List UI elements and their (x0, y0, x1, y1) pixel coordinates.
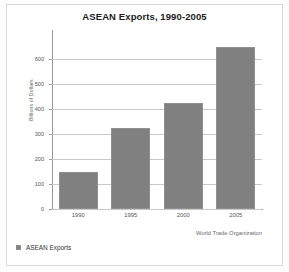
x-tick-label: 1990 (72, 212, 85, 218)
plot-area (52, 34, 262, 209)
bar (216, 47, 255, 210)
y-tick-label: 500 (35, 81, 44, 87)
bar (164, 103, 203, 209)
y-tick-mark (49, 209, 52, 210)
y-tick-label: 300 (35, 131, 44, 137)
chart-title: ASEAN Exports, 1990-2005 (0, 11, 289, 22)
y-tick-label: 0 (41, 206, 44, 212)
x-tick-label: 1995 (124, 212, 137, 218)
bar (111, 128, 150, 209)
source-attribution: World Trade Organization (196, 230, 262, 236)
legend-label: ASEAN Exports (26, 244, 71, 251)
y-tick-label: 600 (35, 56, 44, 62)
chart-figure: ASEAN Exports, 1990-2005 Billions of Dol… (0, 0, 289, 272)
gridline (52, 209, 262, 210)
y-tick-label: 400 (35, 106, 44, 112)
x-tick-label: 2005 (229, 212, 242, 218)
x-axis-tick-labels: 1990199520002005 (52, 212, 262, 224)
bar-series (52, 34, 262, 209)
bar (59, 172, 98, 210)
legend-swatch-icon (16, 245, 21, 250)
chart-legend: ASEAN Exports (16, 244, 71, 251)
x-tick-label: 2000 (177, 212, 190, 218)
y-axis-tick-labels: 600 500 400 300 200 100 0 (0, 34, 50, 209)
y-tick-label: 200 (35, 156, 44, 162)
y-tick-label: 100 (35, 181, 44, 187)
